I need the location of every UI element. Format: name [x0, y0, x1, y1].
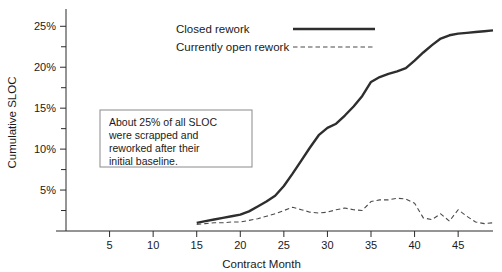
chart-canvas: 5%10%15%20%25% 51015202530354045 Contrac…	[0, 0, 502, 272]
x-tick-label: 30	[321, 239, 333, 251]
y-tick-label: 5%	[40, 184, 56, 196]
annotation-line-3: reworked after their	[109, 142, 200, 154]
y-tick-label: 20%	[34, 61, 56, 73]
y-tick-label: 15%	[34, 102, 56, 114]
x-tick-label: 40	[408, 239, 420, 251]
annotation-line-2: were scrapped and	[108, 129, 198, 141]
y-axis-title: Cumulative SLOC	[6, 76, 18, 168]
x-tick-label: 35	[365, 239, 377, 251]
y-tick-label: 10%	[34, 143, 56, 155]
x-tick-label: 20	[234, 239, 246, 251]
x-tick-label: 15	[191, 239, 203, 251]
chart-figure: 5%10%15%20%25% 51015202530354045 Contrac…	[0, 0, 502, 272]
x-tick-label: 25	[278, 239, 290, 251]
x-tick-label: 10	[147, 239, 159, 251]
annotation-line-1: About 25% of all SLOC	[109, 116, 217, 128]
legend: Closed rework Currently open rework	[176, 23, 375, 53]
legend-label-currently-open-rework: Currently open rework	[176, 41, 289, 53]
x-tick-label: 5	[107, 239, 113, 251]
y-axis-tick-labels: 5%10%15%20%25%	[34, 20, 56, 196]
y-axis-ticks	[60, 26, 66, 210]
x-axis-ticks	[110, 231, 459, 237]
legend-label-closed-rework: Closed rework	[176, 23, 250, 35]
x-tick-label: 45	[452, 239, 464, 251]
x-axis-tick-labels: 51015202530354045	[107, 239, 465, 251]
annotation-rework-note: About 25% of all SLOC were scrapped and …	[100, 110, 252, 167]
annotation-line-4: initial baseline.	[109, 155, 178, 167]
y-tick-label: 25%	[34, 20, 56, 32]
series-currently-open-rework	[197, 198, 493, 224]
x-axis-title: Contract Month	[222, 258, 301, 270]
